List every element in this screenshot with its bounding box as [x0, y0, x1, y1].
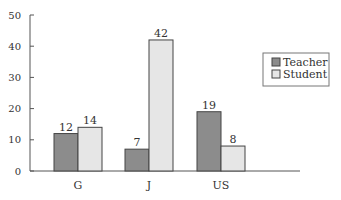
y-tick-label: 40 — [8, 41, 21, 52]
data-label: 12 — [59, 121, 73, 134]
legend-swatch-student — [272, 70, 280, 78]
data-label: 7 — [134, 136, 141, 149]
y-tick-label: 0 — [15, 166, 21, 177]
y-tick-label: 10 — [8, 134, 21, 145]
y-tick-label: 30 — [8, 72, 21, 83]
data-label: 19 — [202, 99, 216, 112]
bar-student-us — [221, 146, 245, 171]
legend-swatch-teacher — [272, 58, 280, 66]
bar-student-g — [78, 127, 102, 171]
y-tick-label: 50 — [8, 10, 21, 21]
data-label: 8 — [230, 133, 237, 146]
legend-label-student: Student — [283, 68, 328, 81]
data-label: 14 — [83, 114, 97, 127]
x-tick-label: G — [74, 179, 83, 192]
x-tick-label: J — [146, 179, 151, 192]
data-label: 42 — [154, 27, 168, 40]
bar-teacher-g — [54, 134, 78, 171]
x-tick-label: US — [213, 179, 230, 192]
bar-student-j — [149, 40, 173, 171]
y-tick-label: 20 — [8, 103, 21, 114]
bar-teacher-us — [197, 112, 221, 171]
bar-chart: 01020304050 1214G742J198US TeacherStuden… — [0, 0, 341, 200]
bar-teacher-j — [125, 149, 149, 171]
legend: TeacherStudent — [263, 53, 329, 86]
